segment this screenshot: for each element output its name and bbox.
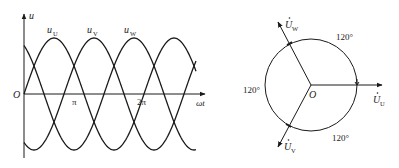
angle-label-bottom-right: 120° bbox=[332, 133, 350, 143]
svg-text:W: W bbox=[292, 25, 299, 32]
arc-arrow-icon bbox=[355, 79, 359, 85]
svg-text:V: V bbox=[93, 30, 98, 37]
svg-text:u: u bbox=[47, 24, 52, 35]
phasor-label-U-V: U V bbox=[284, 139, 296, 154]
phasor-label-U-W: U W bbox=[285, 17, 299, 32]
angle-label-top-right: 120° bbox=[336, 32, 354, 42]
svg-text:U: U bbox=[380, 100, 385, 107]
tick-label-pi: π bbox=[72, 97, 77, 107]
svg-text:u: u bbox=[124, 24, 129, 35]
three-phase-diagram: u ωt O π 2π u U u V u W O bbox=[0, 0, 399, 168]
waveform-plot: u ωt O π 2π u U u V u W bbox=[13, 10, 205, 158]
y-axis-label: u bbox=[29, 10, 34, 21]
origin-label: O bbox=[13, 89, 20, 100]
phasor-diagram: O U U U W U V 120° 120° 120° bbox=[243, 17, 385, 154]
svg-text:u: u bbox=[87, 24, 92, 35]
angle-label-left: 120° bbox=[243, 85, 261, 95]
curve-label-u-W: u W bbox=[124, 24, 137, 37]
svg-text:W: W bbox=[130, 30, 137, 37]
x-axis-label: ωt bbox=[196, 98, 205, 108]
phasor-origin-label: O bbox=[309, 89, 316, 100]
phasor-label-U-U: U U bbox=[373, 92, 385, 107]
curve-label-u-U: u U bbox=[47, 24, 58, 37]
phasor-U-V bbox=[278, 85, 311, 147]
curve-label-u-V: u V bbox=[87, 24, 98, 37]
svg-text:V: V bbox=[291, 147, 296, 154]
svg-text:U: U bbox=[53, 30, 58, 37]
